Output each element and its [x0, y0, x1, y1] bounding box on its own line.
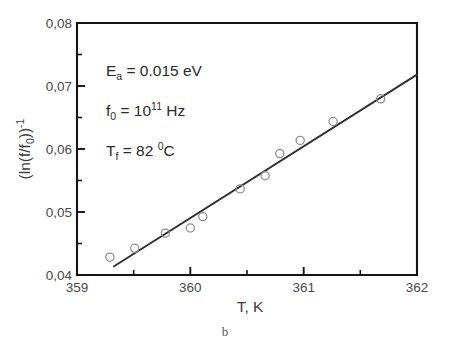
- annotation-value: = 82: [123, 142, 154, 159]
- y-axis-title-prefix: (ln(f/f: [16, 143, 33, 179]
- data-point: [329, 117, 337, 125]
- y-axis-title-superscript: -1: [14, 118, 26, 127]
- x-tick-label: 362: [406, 280, 429, 295]
- scatter-plot: 0,04 0,05 0,06 0,07 0,08 359 360 361 362…: [0, 0, 449, 350]
- y-tick-label: 0,07: [46, 79, 72, 94]
- data-point: [186, 224, 194, 232]
- y-tick-label: 0,05: [46, 205, 72, 220]
- data-point: [296, 136, 304, 144]
- data-point: [276, 150, 284, 158]
- data-point: [199, 213, 207, 221]
- annotation-freezing-temperature: Tf = 82 0C: [106, 140, 175, 162]
- annotation-superscript: 11: [151, 100, 162, 112]
- data-point: [106, 253, 114, 261]
- x-tick-labels: 359 360 361 362: [66, 280, 429, 295]
- x-tick-label: 360: [179, 280, 202, 295]
- annotation-activation-energy: Ea = 0.015 eV: [106, 62, 203, 82]
- y-tick-label: 0,08: [46, 16, 72, 31]
- svg-text:(ln(f/f0))-1: (ln(f/f0))-1: [14, 118, 36, 179]
- annotation-attempt-frequency: f0 = 1011 Hz: [106, 100, 185, 122]
- annotation-value: = 0.015 eV: [127, 62, 203, 79]
- y-axis-title: (ln(f/f0))-1: [14, 118, 36, 179]
- x-tick-label: 359: [66, 280, 89, 295]
- data-point: [131, 244, 139, 252]
- annotation-unit: C: [163, 142, 174, 159]
- annotation-value: = 10: [120, 102, 151, 119]
- data-point: [261, 172, 269, 180]
- y-major-ticks: [77, 23, 85, 275]
- plot-annotations: Ea = 0.015 eV f0 = 1011 Hz Tf = 82 0C: [106, 62, 203, 162]
- y-axis-title-mid: )): [16, 128, 33, 138]
- x-tick-label: 361: [292, 280, 315, 295]
- y-tick-label: 0,06: [46, 142, 72, 157]
- figure-caption: b: [222, 324, 229, 339]
- data-points: [106, 95, 385, 262]
- annotation-unit: Hz: [166, 102, 185, 119]
- annotation-symbol: E: [106, 62, 116, 79]
- y-tick-labels: 0,04 0,05 0,06 0,07 0,08: [46, 16, 73, 283]
- figure-panel: 0,04 0,05 0,06 0,07 0,08 359 360 361 362…: [0, 0, 449, 350]
- x-axis-title: T, K: [237, 298, 264, 315]
